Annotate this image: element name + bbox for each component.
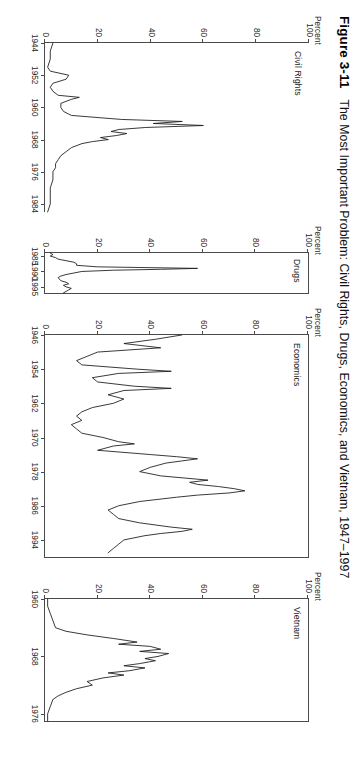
figure-number: Figure 3-11 (337, 16, 352, 88)
y-tick-label: 20 (93, 238, 102, 247)
y-tick-label: 60 (198, 584, 207, 593)
x-tick-label: 1968 (30, 647, 39, 665)
y-tick-label: 60 (199, 28, 208, 37)
y-axis-unit-drugs: Percent (313, 226, 322, 255)
x-tick-label: 1960 (30, 590, 39, 608)
y-tick-label: 80 (251, 320, 260, 329)
x-tick-label: 1970 (30, 428, 39, 446)
y-tick-label: 0 (41, 588, 50, 593)
figure-page: Figure 3-11 The Most Important Problem: … (0, 0, 362, 759)
figure-caption: Figure 3-11 The Most Important Problem: … (337, 16, 352, 578)
y-tick-label: 40 (146, 28, 155, 37)
y-tick-label: 40 (146, 238, 155, 247)
y-tick-label: 20 (93, 320, 102, 329)
y-tick-label: 0 (41, 324, 50, 329)
x-tick-label: 1952 (30, 66, 39, 84)
y-axis-unit-vietnam: Percent (313, 572, 322, 601)
y-tick-label: 0 (41, 32, 50, 37)
plot-area-civil-rights: Civil Rights 100 80 60 40 20 0 1944 1952… (44, 42, 309, 212)
y-tick-label: 100 (304, 315, 313, 329)
x-tick-label: 1976 (30, 705, 39, 723)
x-tick-label: 1995 (30, 278, 39, 296)
x-tick-label: 1976 (30, 163, 39, 181)
y-tick-label: 100 (304, 233, 313, 247)
x-tick-label: 1986 (30, 497, 39, 515)
panel-drugs: Percent Drugs 100 80 60 40 20 0 1985 199… (22, 226, 322, 294)
y-tick-label: 80 (251, 238, 260, 247)
y-tick-label: 40 (146, 584, 155, 593)
panel-vietnam: Percent Vietnam 100 80 60 40 20 0 1960 1… (22, 572, 322, 722)
series-line-drugs (45, 253, 308, 293)
x-tick-label: 1946 (30, 326, 39, 344)
x-tick-label: 1962 (30, 394, 39, 412)
x-tick-label: 1968 (30, 130, 39, 148)
y-tick-label: 40 (146, 320, 155, 329)
plot-area-economics: Economics 100 80 60 40 20 0 1946 1954 19… (44, 334, 309, 558)
y-tick-label: 80 (252, 28, 261, 37)
plot-area-drugs: Drugs 100 80 60 40 20 0 1985 1990 1995 (44, 252, 309, 294)
series-line-vietnam (45, 599, 308, 721)
page-title: The Most Important Problem: Civil Rights… (337, 99, 351, 578)
x-tick-label: 1984 (30, 195, 39, 213)
x-tick-label: 1960 (30, 98, 39, 116)
plot-area-vietnam: Vietnam 100 80 60 40 20 0 1960 1968 1976 (44, 598, 309, 722)
x-tick-label: 1978 (30, 462, 39, 480)
y-tick-label: 80 (251, 584, 260, 593)
y-tick-label: 20 (93, 28, 102, 37)
x-tick-label: 1994 (30, 531, 39, 549)
y-axis-unit-civil-rights: Percent (313, 16, 322, 45)
panel-civil-rights: Percent Civil Rights 100 80 60 40 20 0 1… (22, 16, 322, 212)
y-tick-label: 0 (41, 242, 50, 247)
panel-economics: Percent Economics 100 80 60 40 20 0 1946… (22, 308, 322, 558)
x-tick-label: 1944 (30, 34, 39, 52)
y-tick-label: 60 (198, 320, 207, 329)
panel-row: Percent Civil Rights 100 80 60 40 20 0 1… (22, 16, 322, 722)
series-line-economics (45, 335, 308, 557)
y-tick-label: 60 (198, 238, 207, 247)
rotated-page: Figure 3-11 The Most Important Problem: … (0, 0, 362, 759)
y-axis-unit-economics: Percent (313, 308, 322, 337)
y-tick-label: 100 (304, 579, 313, 593)
x-tick-label: 1954 (30, 360, 39, 378)
y-tick-label: 20 (93, 584, 102, 593)
y-tick-label: 100 (305, 23, 314, 37)
series-line-civil-rights (45, 43, 309, 212)
